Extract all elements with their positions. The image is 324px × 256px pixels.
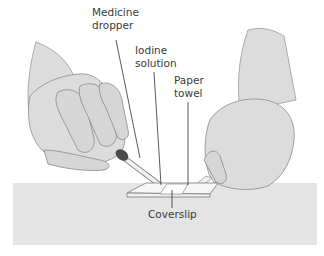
right-hand	[204, 28, 296, 189]
label-paper-towel-line2: towel	[174, 87, 204, 100]
label-paper-towel-line1: Paper	[174, 74, 204, 87]
label-coverslip-text: Coverslip	[148, 208, 197, 221]
label-iodine-solution-line2: solution	[135, 57, 177, 70]
label-iodine-solution: Iodine solution	[135, 44, 177, 70]
figure: Medicine dropper Iodine solution Paper t…	[0, 0, 324, 256]
label-medicine-dropper-line2: dropper	[92, 19, 139, 32]
left-hand	[28, 42, 128, 171]
label-medicine-dropper: Medicine dropper	[92, 6, 139, 32]
dropper-tube-inner	[124, 158, 160, 185]
label-paper-towel: Paper towel	[174, 74, 204, 100]
leader-iodine-solution	[154, 72, 161, 185]
label-iodine-solution-line1: Iodine	[135, 44, 177, 57]
label-coverslip: Coverslip	[148, 208, 197, 221]
medicine-dropper	[113, 147, 160, 185]
label-medicine-dropper-line1: Medicine	[92, 6, 139, 19]
